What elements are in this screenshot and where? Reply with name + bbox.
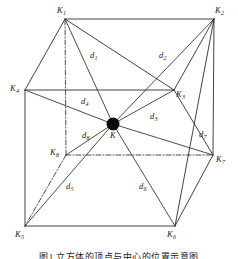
cube-solid-edges	[25, 19, 214, 226]
figure-caption: 图1 立方体的顶点与中心的位置示意图	[0, 250, 238, 259]
center-diagonal-lines	[25, 19, 214, 226]
distance-label-d4: d4	[81, 97, 88, 106]
cube-hidden-edge-K8-K5	[25, 155, 66, 226]
distance-label-d7: d7	[199, 130, 206, 139]
cube-edge-K3-K7	[174, 90, 213, 155]
cube-hidden-edge-K8-K1	[65, 19, 66, 155]
diagonal-d6	[113, 124, 175, 226]
vertex-label-K3: K3	[176, 90, 185, 99]
cube-edge-K6-K2	[175, 19, 214, 226]
vertex-label-K2: K2	[215, 6, 224, 15]
center-point-marker	[107, 118, 120, 131]
cube-edge-K6-K7	[175, 155, 213, 226]
vertex-label-K8: K8	[50, 148, 59, 157]
distance-label-d1: d1	[90, 51, 97, 60]
distance-label-d8: d8	[82, 131, 89, 140]
diagonal-d5	[25, 124, 113, 226]
vertex-label-K5: K5	[15, 230, 24, 239]
cube-edge-K2-K7	[213, 19, 214, 155]
center-label-K: K	[110, 131, 116, 140]
distance-label-d6: d6	[139, 182, 146, 191]
vertex-label-K6: K6	[167, 230, 176, 239]
center-point-dot	[107, 118, 120, 131]
cube-edge-K1-K4	[25, 19, 65, 90]
figure-root: K1K2K3K4K5K6K7K8 d1d2d3d4d5d6d7d8 K 图1 立…	[0, 0, 238, 259]
diagonal-d7	[113, 124, 213, 155]
distance-label-d5: d5	[66, 182, 73, 191]
distance-label-d3: d3	[150, 112, 157, 121]
vertex-label-K7: K7	[216, 155, 225, 164]
diagonal-d3	[113, 90, 174, 124]
vertex-label-K1: K1	[57, 6, 66, 15]
distance-label-d2: d2	[159, 51, 166, 60]
vertex-label-K4: K4	[10, 84, 19, 93]
diagonal-d2	[113, 19, 214, 124]
